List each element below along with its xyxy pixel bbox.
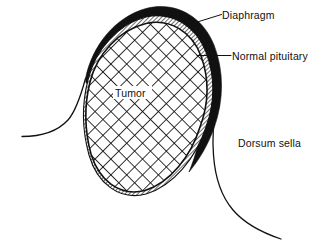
label-tumor-group: Tumor	[113, 86, 152, 99]
sella-floor-left-curve	[22, 79, 86, 137]
tumor-crosshatch-fill	[70, 10, 250, 210]
label-diaphragm: Diaphragm	[222, 9, 275, 21]
label-normal-pituitary: Normal pituitary	[232, 50, 309, 62]
figure-root: Diaphragm Normal pituitary Dorsum sella …	[0, 0, 323, 252]
region-tumor	[70, 10, 250, 210]
dorsum-sella-curve	[213, 105, 281, 239]
label-tumor: Tumor	[115, 87, 146, 99]
label-dorsum-sella: Dorsum sella	[238, 137, 301, 149]
dorsum-sella-tip	[213, 102, 219, 108]
pituitary-tumor-diagram: Diaphragm Normal pituitary Dorsum sella …	[0, 0, 323, 252]
